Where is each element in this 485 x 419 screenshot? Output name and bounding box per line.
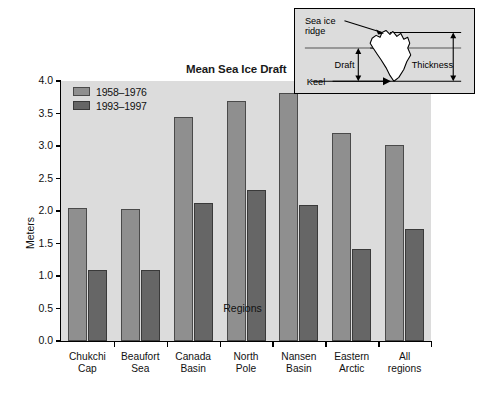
x-tick-label-line: All xyxy=(378,351,431,363)
keel-label: Keel xyxy=(307,77,325,87)
y-tick-label: 3.0 xyxy=(38,139,53,151)
y-tick-label: 4.0 xyxy=(38,74,53,86)
ice-floe-shape xyxy=(370,30,411,81)
thickness-label: Thickness xyxy=(412,60,454,70)
y-tick-label: 2.0 xyxy=(38,204,53,216)
legend-label: 1993–1997 xyxy=(96,100,147,112)
y-tick-label: 1.5 xyxy=(38,237,53,249)
x-tick-label-line: Chukchi xyxy=(61,351,114,363)
bar xyxy=(68,208,87,341)
draft-arrow-head-up xyxy=(355,48,361,54)
x-tick-label: BeaufortSea xyxy=(114,351,167,376)
x-tick-label-line: Sea xyxy=(114,363,167,375)
draft-arrow-head-down xyxy=(355,75,361,81)
x-tick-line xyxy=(167,341,168,347)
x-tick-label-line: Nansen xyxy=(272,351,325,363)
x-tick-line xyxy=(431,341,432,347)
x-tick-label-line: Beaufort xyxy=(114,351,167,363)
chart-figure: Mean Sea Ice Draft Meters 0.00.51.01.52.… xyxy=(0,0,485,419)
legend-swatch xyxy=(73,87,90,96)
ridge-arrow-line xyxy=(344,21,382,33)
x-tick-line xyxy=(272,341,273,347)
chart-legend: 1958–19761993–1997 xyxy=(73,85,147,113)
x-tick-label-line: Arctic xyxy=(325,363,378,375)
x-tick-label: NorthPole xyxy=(220,351,273,376)
x-tick-label-line: Pole xyxy=(220,363,273,375)
x-tick-label-line: North xyxy=(220,351,273,363)
x-tick-label-line: Eastern xyxy=(325,351,378,363)
x-tick-label-line: Basin xyxy=(167,363,220,375)
y-tick-label: 3.5 xyxy=(38,107,53,119)
x-tick-label-line: regions xyxy=(378,363,431,375)
x-tick-line xyxy=(114,341,115,347)
y-axis-label: Meters xyxy=(24,217,36,249)
keel-arrow-head xyxy=(383,77,391,85)
x-tick-line xyxy=(378,341,379,347)
y-tick-label: 0.0 xyxy=(38,334,53,346)
x-tick-label: EasternArctic xyxy=(325,351,378,376)
thickness-arrow-head-up xyxy=(450,32,456,38)
sea-ice-ridge-label-line1: Sea ice xyxy=(305,16,336,26)
bar xyxy=(405,229,424,341)
bar xyxy=(352,249,371,341)
x-tick-label: CanadaBasin xyxy=(167,351,220,376)
legend-swatch xyxy=(73,101,90,110)
x-tick-label: NansenBasin xyxy=(272,351,325,376)
x-tick-line xyxy=(220,341,221,347)
x-axis-label: Regions xyxy=(0,302,485,314)
x-tick-label-line: Basin xyxy=(272,363,325,375)
x-tick-line xyxy=(325,341,326,347)
legend-item: 1993–1997 xyxy=(73,99,147,112)
chart-title: Mean Sea Ice Draft xyxy=(186,63,286,75)
legend-label: 1958–1976 xyxy=(96,86,147,98)
y-tick-label: 2.5 xyxy=(38,172,53,184)
bar xyxy=(121,209,140,341)
ice-cross-section-svg: Sea ice ridge Draft Thickness Keel xyxy=(295,9,474,93)
x-tick-label: ChukchiCap xyxy=(61,351,114,376)
legend-item: 1958–1976 xyxy=(73,85,147,98)
sea-ice-ridge-diagram: Sea ice ridge Draft Thickness Keel xyxy=(294,8,475,94)
bar xyxy=(247,190,266,341)
x-tick-label: Allregions xyxy=(378,351,431,376)
thickness-arrow-head-down xyxy=(450,75,456,81)
x-tick-label-line: Cap xyxy=(61,363,114,375)
x-tick-label-line: Canada xyxy=(167,351,220,363)
sea-ice-ridge-label-line2: ridge xyxy=(305,26,325,36)
draft-label: Draft xyxy=(335,60,355,70)
bar xyxy=(299,205,318,342)
y-tick-label: 1.0 xyxy=(38,269,53,281)
bar xyxy=(194,203,213,341)
